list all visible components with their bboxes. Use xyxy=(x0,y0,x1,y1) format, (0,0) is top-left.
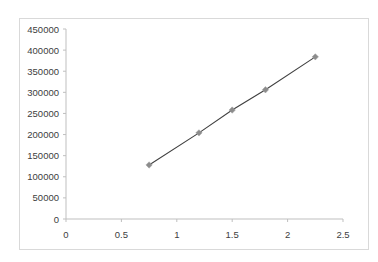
y-axis: 0500001000001500002000002500003000003500… xyxy=(27,24,66,225)
y-tick-label: 0 xyxy=(54,214,59,225)
x-tick-label: 0.5 xyxy=(115,229,128,240)
x-axis: 00.511.522.5 xyxy=(63,219,349,240)
x-tick-label: 1 xyxy=(174,229,179,240)
y-tick-label: 100000 xyxy=(27,171,59,182)
y-tick-label: 350000 xyxy=(27,66,59,77)
x-tick-label: 0 xyxy=(63,229,68,240)
y-tick-label: 250000 xyxy=(27,108,59,119)
x-tick-label: 1.5 xyxy=(226,229,239,240)
x-tick-label: 2 xyxy=(285,229,290,240)
data-series xyxy=(146,54,319,168)
y-tick-label: 200000 xyxy=(27,129,59,140)
y-tick-label: 150000 xyxy=(27,150,59,161)
scatter-plot: 0500001000001500002000002500003000003500… xyxy=(0,0,378,262)
y-tick-label: 450000 xyxy=(27,24,59,35)
y-tick-label: 300000 xyxy=(27,87,59,98)
diamond-marker-icon xyxy=(229,107,235,113)
y-tick-label: 400000 xyxy=(27,45,59,56)
diamond-marker-icon xyxy=(262,87,268,93)
diamond-marker-icon xyxy=(146,162,152,168)
y-tick-label: 50000 xyxy=(33,192,59,203)
diamond-marker-icon xyxy=(312,54,318,60)
diamond-marker-icon xyxy=(196,130,202,136)
x-tick-label: 2.5 xyxy=(336,229,349,240)
